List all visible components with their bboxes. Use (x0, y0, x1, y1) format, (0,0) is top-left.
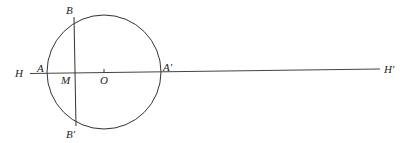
chord-bb-prime (74, 17, 76, 126)
geometry-diagram: H A M O A′ B B′ H′ (0, 0, 410, 143)
line-hh-prime (30, 69, 380, 74)
label-a-prime: A′ (162, 61, 173, 73)
label-o: O (100, 74, 108, 86)
label-m: M (60, 74, 71, 86)
label-a: A (36, 62, 44, 74)
label-b-prime: B′ (66, 128, 76, 140)
label-b: B (66, 4, 73, 16)
label-h-prime: H′ (383, 63, 395, 75)
label-h: H (14, 67, 24, 79)
